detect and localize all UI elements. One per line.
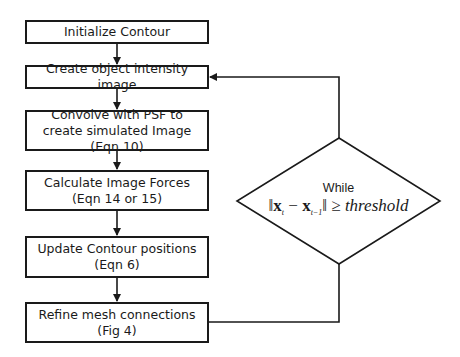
step-label: Initialize Contour bbox=[64, 24, 170, 40]
decision-while-label: While bbox=[237, 181, 440, 196]
step-convolve-psf: Convolve with PSF to create simulated Im… bbox=[25, 110, 209, 151]
ge-sign: ≥ bbox=[327, 196, 345, 215]
step-initialize-contour: Initialize Contour bbox=[25, 20, 209, 44]
threshold-text: threshold bbox=[345, 196, 409, 215]
step-label: Refine mesh connections (Fig 4) bbox=[31, 307, 203, 339]
decision-condition: While ‖xt − xt−1‖ ≥ threshold bbox=[237, 181, 440, 223]
line-refine-to-decision bbox=[208, 264, 339, 322]
minus: − bbox=[284, 196, 302, 215]
step-label: Convolve with PSF to create simulated Im… bbox=[31, 107, 203, 155]
subscript-t-minus-1: t−1 bbox=[311, 208, 323, 217]
step-create-intensity-image: Create object intensity image bbox=[25, 65, 209, 89]
step-label: Create object intensity image bbox=[31, 61, 203, 93]
x-vector-prev: x bbox=[302, 196, 311, 215]
step-calculate-forces: Calculate Image Forces (Eqn 14 or 15) bbox=[25, 170, 209, 211]
loop-arrow-to-intensity bbox=[210, 77, 339, 138]
step-label: Calculate Image Forces (Eqn 14 or 15) bbox=[31, 175, 203, 207]
step-refine-mesh: Refine mesh connections (Fig 4) bbox=[25, 302, 209, 343]
x-vector: x bbox=[273, 196, 282, 215]
step-label: Update Contour positions (Eqn 6) bbox=[31, 241, 203, 273]
decision-expression: ‖xt − xt−1‖ ≥ threshold bbox=[237, 196, 440, 223]
step-update-contour: Update Contour positions (Eqn 6) bbox=[25, 236, 209, 278]
